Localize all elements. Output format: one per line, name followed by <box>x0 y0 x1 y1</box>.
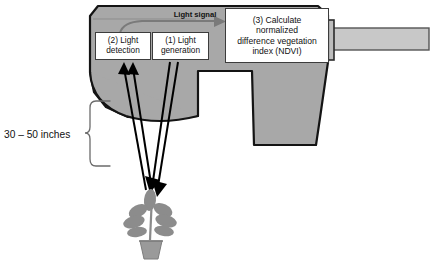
step-box-light-generation-label: (1) Light generation <box>161 36 200 56</box>
ndvi-line-2: normalized <box>256 25 298 35</box>
distance-brace <box>85 101 110 166</box>
step-box-ndvi-calculation[interactable]: (3) Calculate normalized difference vege… <box>225 8 329 63</box>
potted-plant <box>122 188 178 259</box>
step-box-light-detection-label: (2) Light detection <box>106 36 140 56</box>
ndvi-line-1: (3) Calculate <box>253 15 302 25</box>
diagram-canvas: (2) Light detection (1) Light generation… <box>0 0 431 267</box>
step-box-light-detection[interactable]: (2) Light detection <box>95 32 151 60</box>
ndvi-line-4: index (NDVI) <box>252 46 301 56</box>
mounting-pole <box>322 20 429 60</box>
ndvi-line-3: difference vegetation <box>237 36 317 46</box>
step-box-light-generation[interactable]: (1) Light generation <box>152 32 209 60</box>
step-box-ndvi-calculation-label: (3) Calculate normalized difference vege… <box>237 15 317 56</box>
generation-line-2: generation <box>161 45 200 55</box>
distance-label: 30 – 50 inches <box>4 129 86 140</box>
plant-pot <box>140 241 162 259</box>
light-signal-label: Light signal <box>150 10 240 19</box>
detection-line-1: (2) Light <box>108 35 138 45</box>
generation-line-1: (1) Light <box>165 35 195 45</box>
distance-brace-path <box>85 101 110 166</box>
detection-line-2: detection <box>106 45 140 55</box>
mounting-pole-rod <box>330 28 429 50</box>
